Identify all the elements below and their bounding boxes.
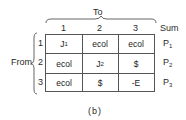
row-header-2: 2: [38, 57, 43, 67]
table-cell: $: [82, 74, 118, 92]
sum-value-2: P2: [163, 57, 172, 70]
table-cell: J2: [82, 54, 118, 73]
table-cell: -E: [118, 74, 154, 92]
sum-value-3: P3: [163, 77, 172, 90]
table-cell: ecol: [118, 35, 154, 53]
table-cell: ecol: [46, 74, 82, 92]
matrix-table: J1 ecol ecol ecol J2 $ ecol $ -E: [45, 34, 155, 92]
sum-label: Sum: [160, 23, 179, 33]
column-header-3: 3: [133, 23, 138, 33]
column-header-1: 1: [61, 23, 66, 33]
table-cell: $: [118, 54, 154, 73]
row-header-1: 1: [38, 38, 43, 48]
figure-caption: (b): [88, 106, 102, 116]
column-header-2: 2: [97, 23, 102, 33]
from-label: From: [11, 57, 32, 67]
table-cell: J1: [46, 35, 82, 53]
row-header-3: 3: [38, 77, 43, 87]
table-cell: ecol: [46, 54, 82, 73]
sum-value-1: P1: [163, 38, 172, 51]
table-cell: ecol: [82, 35, 118, 53]
